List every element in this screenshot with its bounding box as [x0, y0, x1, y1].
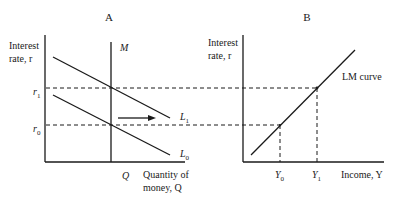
r0-label: r0: [33, 123, 41, 137]
panel-a-y-axis-label-line2: rate, r: [9, 53, 33, 64]
panel-b-y-axis-label-line2: rate, r: [208, 50, 232, 61]
money-quantity-label: Q: [122, 170, 130, 181]
y0-label: Y0: [275, 169, 285, 183]
l0-label: L0: [179, 148, 190, 162]
r1-label: r1: [33, 86, 41, 100]
panel-a: A Interest rate, r M L1 L0 r1 r0 Q Quant…: [9, 11, 190, 193]
panel-a-y-axis-label-line1: Interest: [9, 40, 39, 51]
lm-derivation-diagram: A Interest rate, r M L1 L0 r1 r0 Q Quant…: [0, 0, 400, 202]
panel-b-x-axis-label: Income, Y: [341, 169, 383, 180]
panel-a-x-axis-label-line2: money, Q: [143, 182, 183, 193]
panel-b: B Interest rate, r LM curve Y0 Y1 Income…: [208, 11, 384, 183]
panel-b-title: B: [303, 11, 310, 23]
panel-a-title: A: [105, 11, 113, 23]
y1-label: Y1: [312, 169, 322, 183]
shift-arrow-icon: [148, 115, 156, 121]
l1-label: L1: [179, 111, 190, 125]
panel-a-x-axis-label-line1: Quantity of: [143, 169, 189, 180]
lm-curve-label: LM curve: [342, 71, 382, 82]
lm-curve: [251, 50, 355, 155]
money-supply-label: M: [119, 42, 129, 53]
panel-b-y-axis-label-line1: Interest: [208, 37, 238, 48]
